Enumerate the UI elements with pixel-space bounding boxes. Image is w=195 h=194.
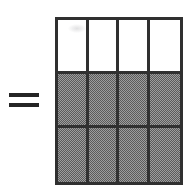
grid-cell-r1c2 bbox=[89, 20, 120, 74]
grid-cell-r2c2 bbox=[89, 74, 120, 128]
grid-cell-r2c4 bbox=[150, 74, 181, 128]
grid-cell-r3c1 bbox=[58, 128, 89, 182]
grid-cell-r1c4 bbox=[150, 20, 181, 74]
figure-canvas: = bbox=[0, 0, 195, 194]
grid-cell-r1c3 bbox=[119, 20, 150, 74]
grid-cell-r2c1 bbox=[58, 74, 89, 128]
grid-cell-r3c3 bbox=[119, 128, 150, 182]
grid-cell-r2c3 bbox=[119, 74, 150, 128]
equals-sign-top-bar bbox=[9, 93, 39, 97]
grid-cell-r3c4 bbox=[150, 128, 181, 182]
area-model-grid bbox=[55, 17, 183, 185]
grid-cell-r1c1 bbox=[58, 20, 89, 74]
equals-sign: = bbox=[9, 93, 39, 108]
equals-sign-bottom-bar bbox=[9, 103, 39, 107]
grid-cell-r3c2 bbox=[89, 128, 120, 182]
